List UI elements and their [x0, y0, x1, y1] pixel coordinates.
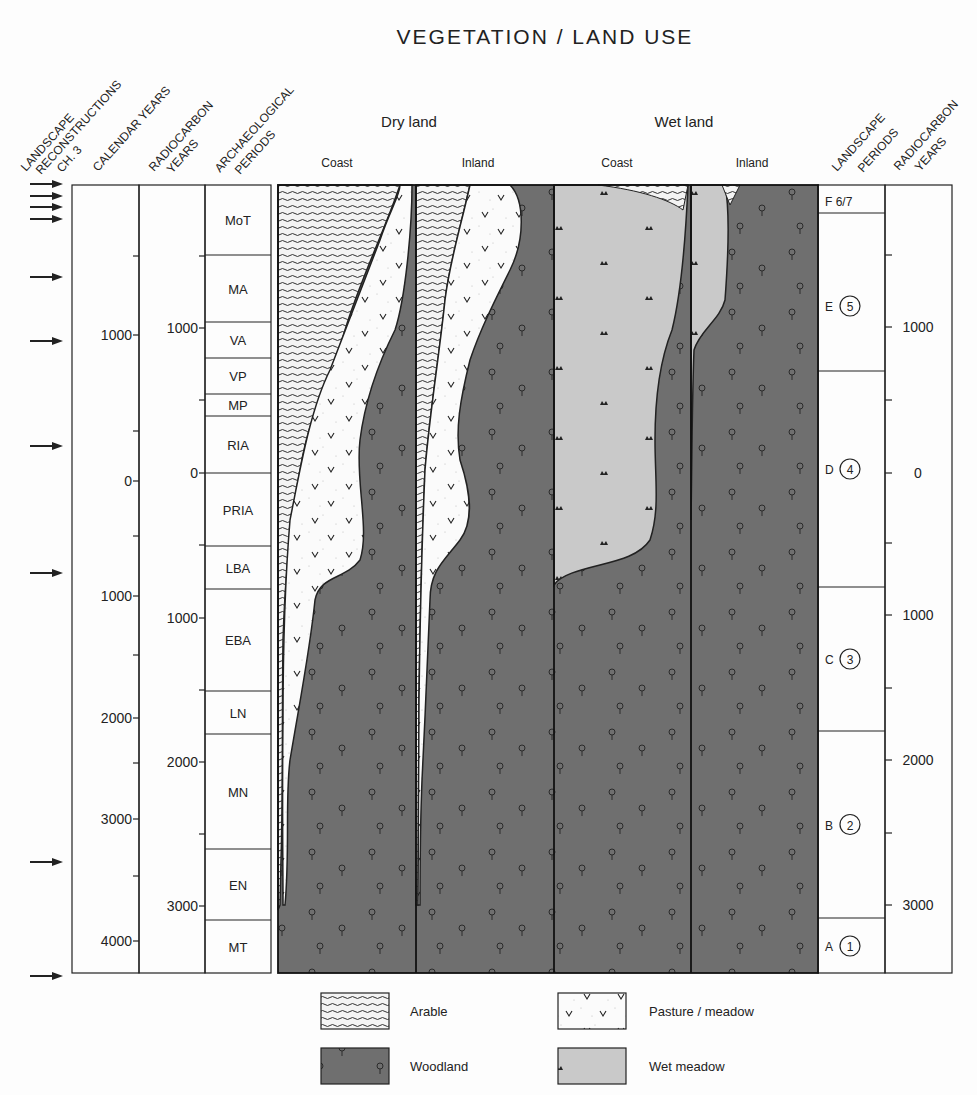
dry-coast-header: Coast [321, 156, 353, 170]
arch-periods: MoTMAVAVPMPRIAPRIALBAEBALNMNENMT [205, 213, 271, 955]
arch-period-label: MN [228, 785, 248, 800]
radiocarbon-right-ticks: 10000100020003000 [885, 255, 934, 913]
dry-inland-header: Inland [462, 156, 495, 170]
reconstruction-arrow-icon [30, 337, 63, 345]
landscape-period-letter: A [825, 940, 833, 954]
landscape-period-number: 4 [847, 463, 854, 477]
arch-period-label: RIA [227, 438, 249, 453]
arch-period-label: MA [228, 282, 248, 297]
tick-label: 4000 [101, 933, 132, 949]
tick-label: 3000 [167, 898, 198, 914]
radiocarbon-right-axis [885, 185, 952, 973]
landscape-period-letter: E [825, 300, 833, 314]
calendar-years-axis [72, 185, 139, 973]
legend-label-arable: Arable [410, 1004, 448, 1019]
tick-label: 0 [914, 465, 922, 481]
arch-period-label: VP [229, 369, 246, 384]
legend-item-wet-meadow: Wet meadow [558, 1048, 725, 1084]
arch-period-label: LBA [226, 561, 251, 576]
tick-label: 3000 [902, 897, 933, 913]
reconstruction-arrow-icon [30, 180, 63, 188]
tick-label: 3000 [101, 811, 132, 827]
tick-label: 0 [190, 465, 198, 481]
reconstruction-arrow-icon [30, 273, 63, 281]
dry-land-header: Dry land [381, 113, 437, 130]
reconstruction-arrow-icon [30, 215, 63, 223]
arch-period-label: VA [230, 333, 247, 348]
arch-period-label: MP [228, 398, 248, 413]
pasture-swatch [558, 993, 626, 1029]
tick-label: 1000 [902, 319, 933, 335]
radiocarbon-left-ticks: 10000100020003000 [167, 256, 205, 914]
arch-period-label: PRIA [223, 503, 254, 518]
tick-label: 1000 [902, 607, 933, 623]
tick-label: 0 [124, 473, 132, 489]
woodland-swatch [321, 1048, 389, 1084]
reconstruction-arrows [30, 180, 63, 980]
chart-title: VEGETATION / LAND USE [397, 25, 694, 48]
column-wet-inland [691, 185, 818, 973]
arch-period-label: MT [229, 940, 248, 955]
tick-label: 2000 [902, 752, 933, 768]
arch-periods-column [205, 185, 271, 973]
radiocarbon-left-axis [139, 185, 205, 973]
legend-item-woodland: Woodland [321, 1048, 468, 1084]
landscape-period-letter: D [825, 463, 834, 477]
arable-swatch [321, 993, 389, 1029]
arch-period-label: EN [229, 878, 247, 893]
column-dry-inland [416, 185, 554, 973]
column-wet-coast [554, 185, 691, 973]
arch-period-label: EBA [225, 633, 251, 648]
landscape-period-letter: F 6/7 [825, 195, 853, 209]
reconstruction-arrow-icon [30, 442, 63, 450]
wet-inland-header: Inland [736, 156, 769, 170]
arch-period-label: MoT [225, 213, 251, 228]
legend: Arable Pasture / meadow Woodland Wet mea… [321, 993, 754, 1084]
tick-label: 1000 [101, 588, 132, 604]
landscape-period-number: 5 [847, 300, 854, 314]
tick-label: 1000 [101, 327, 132, 343]
reconstruction-arrow-icon [30, 203, 63, 211]
legend-item-arable: Arable [321, 993, 448, 1029]
column-dry-coast [278, 185, 416, 973]
legend-item-pasture: Pasture / meadow [558, 993, 754, 1029]
wet-meadow-swatch [558, 1048, 626, 1084]
landscape-period-letter: C [825, 653, 834, 667]
tick-label: 1000 [167, 320, 198, 336]
reconstruction-arrow-icon [30, 569, 63, 577]
landscape-period-number: 3 [847, 653, 854, 667]
vegetation-land-use-diagram: VEGETATION / LAND USE Dry land Wet land … [0, 0, 977, 1095]
arch-period-label: LN [230, 706, 247, 721]
tick-label: 2000 [167, 754, 198, 770]
landscape-periods: F 6/7E5D4C3B2A1 [818, 195, 885, 956]
wet-land-header: Wet land [655, 113, 714, 130]
calendar-ticks: 100001000200030004000 [101, 256, 139, 949]
landscape-period-number: 1 [847, 940, 854, 954]
tick-label: 1000 [167, 610, 198, 626]
landscape-period-letter: B [825, 819, 833, 833]
reconstruction-arrow-icon [30, 972, 63, 980]
tick-label: 2000 [101, 710, 132, 726]
landscape-period-number: 2 [847, 819, 854, 833]
legend-label-woodland: Woodland [410, 1059, 468, 1074]
legend-label-pasture: Pasture / meadow [649, 1004, 754, 1019]
wet-coast-header: Coast [601, 156, 633, 170]
reconstruction-arrow-icon [30, 192, 63, 200]
legend-label-wet-meadow: Wet meadow [649, 1059, 725, 1074]
reconstruction-arrow-icon [30, 858, 63, 866]
